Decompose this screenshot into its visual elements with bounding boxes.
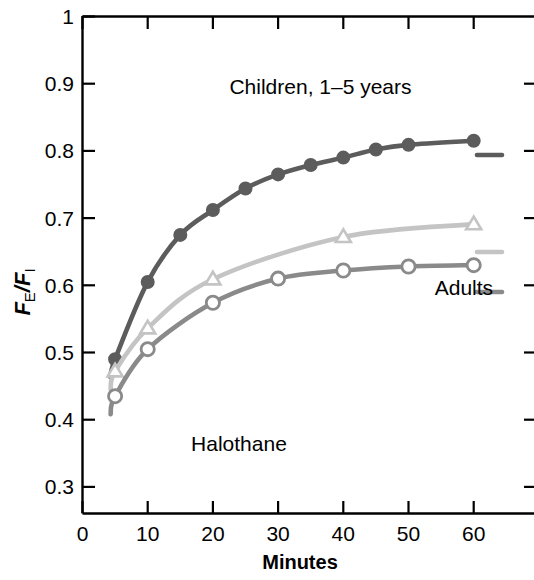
y-axis-ticks-right — [524, 84, 534, 487]
data-point-open-triangle — [466, 217, 481, 230]
data-point-filled-circle — [142, 276, 154, 288]
data-point-open-circle — [141, 343, 154, 356]
svg-text:FE/FI: FE/FI — [10, 268, 38, 315]
agent-label: Halothane — [191, 432, 287, 455]
x-tick-label: 20 — [201, 522, 224, 545]
data-point-filled-circle — [272, 168, 284, 180]
x-tick-label: 40 — [332, 522, 355, 545]
data-point-open-circle — [337, 264, 350, 277]
data-point-open-circle — [467, 259, 480, 272]
y-tick-label: 0.7 — [45, 207, 74, 230]
data-point-filled-circle — [370, 143, 382, 155]
y-tick-label: 0.4 — [45, 408, 75, 431]
y-tick-label: 0.5 — [45, 341, 74, 364]
data-point-filled-circle — [402, 139, 414, 151]
y-tick-label: 1 — [62, 5, 74, 28]
data-point-filled-circle — [305, 159, 317, 171]
x-tick-label: 60 — [462, 522, 485, 545]
data-point-filled-circle — [337, 151, 349, 163]
data-point-open-circle — [206, 296, 219, 309]
x-tick-label: 30 — [266, 522, 289, 545]
y-axis-ticks — [83, 17, 96, 487]
y-tick-label: 0.6 — [45, 274, 74, 297]
legend-stub-layer — [477, 155, 502, 292]
data-series-layer — [108, 135, 482, 415]
children-label: Children, 1–5 years — [229, 75, 411, 98]
data-point-filled-circle — [468, 135, 480, 147]
data-point-filled-circle — [207, 204, 219, 216]
series-line — [111, 141, 474, 377]
x-tick-label: 0 — [77, 522, 89, 545]
data-point-open-triangle — [205, 272, 220, 285]
x-axis-tick-labels: 0102030405060 — [77, 522, 486, 545]
y-tick-label: 0.8 — [45, 139, 74, 162]
data-point-open-circle — [272, 272, 285, 285]
chart-canvas: 0.30.40.50.60.70.80.91 0102030405060 Chi… — [0, 0, 534, 580]
data-point-filled-circle — [174, 229, 186, 241]
data-point-open-circle — [402, 260, 415, 273]
series-3 — [109, 259, 481, 415]
x-axis-title: Minutes — [262, 551, 338, 573]
series-line — [111, 265, 474, 414]
x-tick-label: 10 — [136, 522, 159, 545]
adults-label: Adults — [435, 276, 493, 299]
series-1 — [109, 135, 480, 378]
data-point-filled-circle — [239, 182, 251, 194]
series-line — [111, 224, 474, 389]
x-tick-label: 50 — [397, 522, 420, 545]
data-point-open-circle — [109, 390, 122, 403]
y-tick-label: 0.3 — [45, 475, 74, 498]
series-2 — [108, 217, 482, 390]
y-tick-label: 0.9 — [45, 72, 74, 95]
halothane-uptake-chart: 0.30.40.50.60.70.80.91 0102030405060 Chi… — [0, 0, 534, 580]
data-point-open-triangle — [336, 229, 351, 242]
y-axis-title: FE/FI — [10, 268, 38, 315]
y-axis-tick-labels: 0.30.40.50.60.70.80.91 — [45, 5, 75, 498]
